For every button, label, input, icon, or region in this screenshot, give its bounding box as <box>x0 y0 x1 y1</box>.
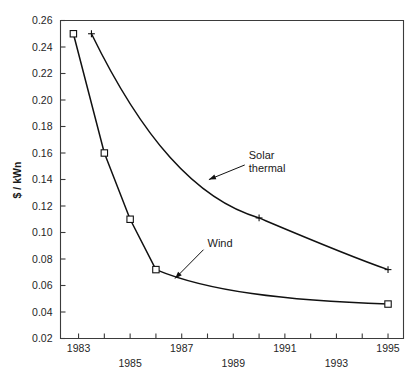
y-tick-label: 0.24 <box>32 41 53 53</box>
y-tick-label: 0.20 <box>32 94 53 106</box>
chart-background <box>0 0 419 381</box>
annotation-label-line2: thermal <box>249 162 286 174</box>
y-axis-title-text: $ / kWn <box>11 162 23 199</box>
annotation-label: Wind <box>208 237 233 249</box>
y-axis-title: $ / kWn <box>11 162 23 199</box>
y-tick-label: 0.02 <box>32 332 53 344</box>
data-point-marker <box>153 266 159 272</box>
data-point-marker <box>385 301 391 307</box>
y-tick-label: 0.14 <box>32 173 53 185</box>
y-tick-label: 0.06 <box>32 279 53 291</box>
x-tick-label: 1991 <box>273 342 297 354</box>
y-tick-label: 0.04 <box>32 306 53 318</box>
x-tick-label: 1983 <box>67 342 91 354</box>
x-tick-label: 1985 <box>118 357 142 369</box>
chart-figure: $ / kWn 0.020.040.060.080.100.120.140.16… <box>0 0 419 381</box>
y-tick-label: 0.16 <box>32 147 53 159</box>
x-tick-label: 1987 <box>170 342 194 354</box>
y-tick-label: 0.10 <box>32 226 53 238</box>
data-point-marker <box>70 31 76 37</box>
data-point-marker <box>127 216 133 222</box>
y-tick-label: 0.18 <box>32 120 53 132</box>
y-tick-label: 0.22 <box>32 67 53 79</box>
x-tick-label: 1989 <box>222 357 246 369</box>
x-tick-label: 1993 <box>325 357 349 369</box>
line-chart: $ / kWn 0.020.040.060.080.100.120.140.16… <box>0 0 419 381</box>
y-tick-label: 0.08 <box>32 253 53 265</box>
y-tick-label: 0.12 <box>32 200 53 212</box>
x-tick-label: 1995 <box>376 342 400 354</box>
data-point-marker <box>101 150 107 156</box>
annotation-label: Solar <box>249 149 275 161</box>
y-tick-label: 0.26 <box>32 14 53 26</box>
